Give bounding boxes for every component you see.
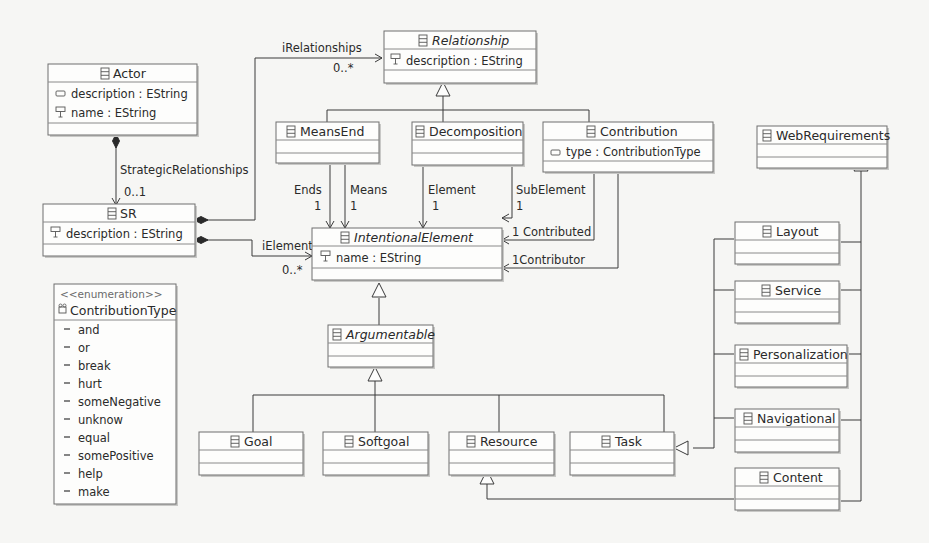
edge-generalization-content-resource: [487, 484, 734, 499]
label-contributor: 1Contributor: [512, 253, 585, 267]
eclass-icon: [467, 436, 475, 447]
class-resource[interactable]: Resource: [449, 432, 556, 477]
class-name: Service: [775, 283, 822, 298]
class-name: IntentionalElement: [354, 230, 474, 245]
svg-text:and: and: [78, 323, 100, 337]
eclass-icon: [416, 126, 424, 137]
eclass-icon: [231, 436, 239, 447]
class-name: Layout: [776, 224, 819, 239]
svg-text:break: break: [78, 359, 111, 373]
attribute: description : EString: [406, 54, 523, 68]
eclass-icon: [744, 413, 752, 424]
label-sub-element: SubElement: [516, 183, 586, 197]
class-service[interactable]: Service: [735, 281, 841, 325]
attribute: name : EString: [336, 251, 421, 265]
svg-text:equal: equal: [78, 431, 110, 445]
label-means: Means: [350, 183, 387, 197]
class-navigational[interactable]: Navigational: [735, 409, 841, 454]
class-name: Contribution: [600, 124, 678, 139]
edge-sub-element[interactable]: [502, 165, 512, 218]
svg-text:make: make: [78, 485, 110, 499]
class-name: Argumentable: [345, 327, 435, 342]
generalization-triangle-icon: [674, 441, 688, 455]
eclass-icon: [587, 126, 595, 137]
label-strategic-relationships: StrategicRelationships: [120, 163, 249, 177]
label-i-element: iElement: [262, 239, 313, 253]
class-web-requirements[interactable]: WebRequirements: [757, 126, 890, 170]
eclass-icon: [419, 35, 427, 46]
class-name: Actor: [113, 66, 147, 81]
uml-class-diagram: StrategicRelationships 0..1 iRelationshi…: [0, 0, 929, 543]
mult-element: 1: [432, 199, 439, 213]
eclass-icon: [108, 208, 116, 219]
class-name: Content: [773, 470, 823, 485]
class-name: Relationship: [432, 33, 509, 48]
class-argumentable[interactable]: Argumentable: [328, 325, 435, 369]
edge-generalization-task-bus: [693, 239, 714, 448]
mult-means: 1: [350, 199, 357, 213]
class-name: Decomposition: [429, 124, 523, 139]
edge-generalization-argumentable-bar: [253, 395, 664, 432]
class-content[interactable]: Content: [735, 468, 841, 512]
class-name: Resource: [480, 434, 538, 449]
class-name: Task: [614, 434, 643, 449]
class-actor[interactable]: Actor description : EString name : EStri…: [48, 64, 199, 137]
class-goal[interactable]: Goal: [199, 432, 305, 477]
mult-sub-element: 1: [516, 199, 523, 213]
mult-strategic-relationships: 0..1: [124, 185, 146, 199]
class-contribution[interactable]: Contribution type : ContributionType: [543, 122, 715, 174]
enum-stereotype: <<enumeration>>: [60, 288, 163, 300]
eclass-icon: [602, 436, 610, 447]
svg-text:help: help: [78, 467, 103, 481]
class-name: Softgoal: [358, 434, 409, 449]
eclass-icon: [333, 329, 341, 340]
class-name: Personalization: [753, 347, 848, 362]
eclass-icon: [287, 126, 295, 137]
enum-literal: someNegative: [64, 395, 161, 409]
class-name: Navigational: [757, 411, 836, 426]
class-personalization[interactable]: Personalization: [735, 345, 849, 389]
enum-name: ContributionType: [70, 303, 177, 318]
class-task[interactable]: Task: [570, 432, 676, 477]
enum-literal: somePositive: [64, 449, 154, 463]
label-ends: Ends: [294, 183, 322, 197]
mult-i-element: 0..*: [282, 263, 303, 277]
generalization-triangle-icon: [372, 283, 386, 297]
mult-ends: 1: [314, 199, 321, 213]
generalization-triangle-icon: [368, 367, 382, 381]
eclass-icon: [760, 472, 768, 483]
eclass-icon: [345, 436, 353, 447]
label-element: Element: [428, 183, 476, 197]
attribute: description : EString: [66, 227, 183, 241]
class-softgoal[interactable]: Softgoal: [323, 432, 430, 477]
class-means-end[interactable]: MeansEnd: [276, 122, 381, 165]
class-layout[interactable]: Layout: [735, 222, 841, 266]
attribute: description : EString: [71, 87, 188, 101]
svg-text:hurt: hurt: [78, 377, 102, 391]
class-name: MeansEnd: [300, 124, 364, 139]
mult-i-relationships: 0..*: [333, 61, 354, 75]
svg-text:somePositive: somePositive: [78, 449, 154, 463]
eattribute-icon: [551, 150, 560, 155]
class-sr[interactable]: SR description : EString: [43, 204, 197, 258]
eclass-icon: [763, 130, 771, 141]
eclass-icon: [763, 226, 771, 237]
label-contributed: 1 Contributed: [512, 225, 591, 239]
attribute: type : ContributionType: [566, 145, 701, 159]
label-i-relationships: iRelationships: [282, 41, 362, 55]
class-intentional-element[interactable]: IntentionalElement name : EString: [312, 228, 504, 282]
class-name: Goal: [244, 434, 272, 449]
attribute: name : EString: [71, 106, 156, 120]
eclass-icon: [101, 68, 109, 79]
svg-text:someNegative: someNegative: [78, 395, 161, 409]
eattribute-icon: [56, 91, 65, 96]
eclass-icon: [341, 232, 349, 243]
class-relationship[interactable]: Relationship description : EString: [384, 31, 538, 85]
eclass-icon: [762, 285, 770, 296]
svg-text:or: or: [78, 341, 90, 355]
svg-text:unknow: unknow: [78, 413, 123, 427]
class-name: SR: [120, 206, 137, 221]
enum-contribution-type[interactable]: <<enumeration>> ContributionType and or …: [54, 284, 178, 506]
eclass-icon: [740, 349, 748, 360]
class-decomposition[interactable]: Decomposition: [412, 122, 525, 167]
